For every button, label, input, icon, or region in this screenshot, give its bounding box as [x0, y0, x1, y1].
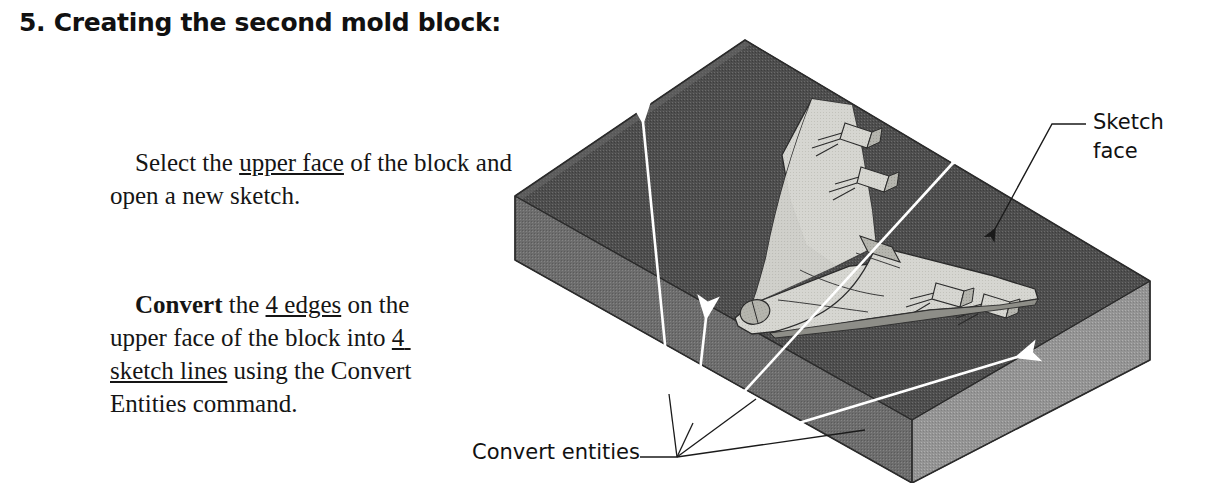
para2-link-4-edges: 4 edges — [266, 291, 342, 318]
convert-entities-arrows — [643, 122, 1017, 456]
para1-seg-0: Select the — [135, 149, 239, 176]
page-title: 5. Creating the second mold block: — [19, 8, 501, 37]
instruction-paragraph-1: Select the upper face of the block and o… — [110, 113, 540, 245]
model-panel-line-3 — [856, 253, 900, 268]
model-engine-1 — [812, 123, 882, 156]
callout-sketch-face-line2: face — [1093, 137, 1164, 166]
block-top-face — [515, 40, 1150, 420]
model-cockpit — [737, 296, 772, 327]
model-upper-wing — [782, 99, 876, 266]
model-right-wing — [770, 246, 1038, 333]
model-cockpit-line — [752, 301, 758, 323]
convert-entities-leader-2 — [677, 423, 693, 457]
instruction-paragraph-2: Convert the 4 edges on the upper face of… — [110, 255, 440, 453]
convert-entities-leader-1 — [669, 394, 677, 457]
block-top-left-bevel — [515, 40, 751, 200]
model-fuselage — [735, 262, 906, 334]
edge-arrow-2 — [694, 318, 706, 424]
convert-entities-leaders — [640, 394, 865, 457]
convert-entities-leader-4 — [677, 430, 865, 457]
block-edge-top-right — [912, 281, 1150, 420]
model-panel-line-1 — [800, 270, 884, 296]
convert-entities-leader-3 — [677, 399, 756, 457]
model-engine-2 — [829, 167, 899, 200]
edge-arrow-1 — [643, 122, 670, 395]
block-outline — [515, 40, 1150, 483]
mold-block-solid — [515, 40, 1150, 483]
model-spine-fairing — [860, 236, 900, 262]
edge-arrow-3 — [700, 164, 952, 440]
model-upper-wing-sweep — [752, 99, 812, 304]
callout-convert-entities: Convert entities — [472, 440, 640, 464]
aircraft-model — [735, 99, 1038, 338]
para2-command-convert: Convert — [135, 291, 222, 318]
edge-arrow-4 — [690, 357, 1017, 456]
block-edge-top-left — [515, 196, 912, 420]
block-right-face — [912, 281, 1150, 483]
model-engine-3 — [906, 283, 974, 315]
callout-sketch-face-line1: Sketch — [1093, 108, 1164, 137]
model-wing-shadow — [770, 299, 1038, 338]
callout-sketch-face: Sketch face — [1093, 108, 1164, 166]
model-panel-line-2 — [778, 300, 868, 312]
model-upper-wing-fill — [752, 99, 876, 304]
para1-link-upper-face: upper face — [239, 149, 344, 176]
sketch-face-leader — [995, 124, 1086, 229]
model-engine-4 — [956, 294, 1020, 325]
para2-seg-1: the — [222, 291, 265, 318]
figure-page: 5. Creating the second mold block: Selec… — [0, 0, 1211, 483]
